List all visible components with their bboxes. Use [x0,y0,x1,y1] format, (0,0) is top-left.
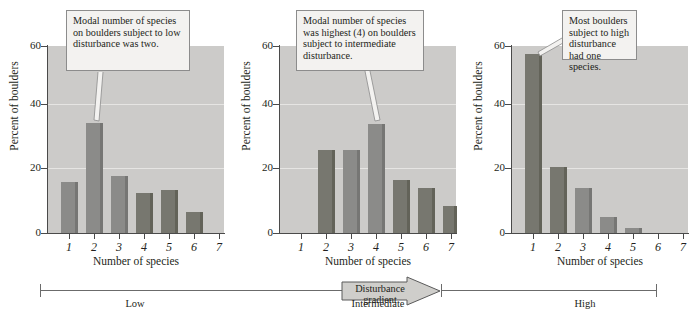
x-tick-6-high [658,233,659,239]
bar-high-2 [550,167,567,233]
x-tick-2-high [558,233,559,239]
y-label-0-intermediate: 0 [249,227,273,238]
y-label-20-high: 20 [481,162,505,173]
y-label-20-intermediate: 20 [249,162,273,173]
disturbance-gradient-strip: Disturbance gradient Low Intermediate Hi… [0,268,697,321]
x-axis-title-intermediate: Number of species [280,255,456,267]
x-axis-low [47,233,225,234]
y-tick-20-high [505,168,511,169]
x-label-2-intermediate: 2 [316,241,336,254]
bar-low-4 [136,193,153,233]
gradient-line-right [441,290,657,291]
x-tick-4-intermediate [376,233,377,239]
x-label-3-intermediate: 3 [341,241,361,254]
callout-low: Modal number of species on boulders subj… [66,10,190,71]
chart-panel-intermediate: 60 40 20 0 1 2 3 4 5 6 7 Number of speci… [232,0,464,268]
y-tick-20-intermediate [273,168,279,169]
gradient-label-intermediate: Intermediate [318,298,438,310]
bar-low-6 [186,212,203,233]
callout-intermediate: Modal number of species was highest (4) … [296,10,424,71]
y-tick-0-low [41,233,47,234]
y-axis-title-intermediate: Percent of boulders [240,46,252,166]
bar-intermediate-6 [418,188,435,233]
bar-low-3 [111,176,128,233]
x-label-6-intermediate: 6 [416,241,436,254]
x-tick-7-low [219,233,220,239]
x-label-5-high: 5 [623,241,643,254]
gradient-line-left [40,290,343,291]
y-tick-60-intermediate [273,46,279,47]
bar-intermediate-3 [343,150,360,233]
gridline-40-low [48,104,224,105]
bar-high-3 [575,188,592,233]
x-tick-7-high [683,233,684,239]
x-tick-3-high [583,233,584,239]
y-label-60-intermediate: 60 [249,40,273,51]
y-tick-40-low [41,104,47,105]
y-label-20-low: 20 [17,162,41,173]
gradient-label-low: Low [75,298,195,310]
x-tick-6-low [194,233,195,239]
y-tick-60-low [41,46,47,47]
x-tick-2-low [94,233,95,239]
bar-intermediate-7 [443,206,457,233]
bar-low-2 [86,123,103,233]
x-tick-3-low [119,233,120,239]
x-label-2-high: 2 [548,241,568,254]
x-tick-5-low [169,233,170,239]
x-label-4-low: 4 [134,241,154,254]
x-label-5-intermediate: 5 [391,241,411,254]
y-label-0-high: 0 [481,227,505,238]
x-tick-2-intermediate [326,233,327,239]
chart-panel-low: 60 40 20 0 1 2 3 4 5 6 7 Number of speci… [0,0,232,268]
x-tick-4-high [608,233,609,239]
x-tick-5-high [633,233,634,239]
x-label-7-low: 7 [209,241,229,254]
x-tick-3-intermediate [351,233,352,239]
x-label-1-intermediate: 1 [291,241,311,254]
y-label-40-intermediate: 40 [249,98,273,109]
y-axis-intermediate [279,45,280,234]
x-label-4-high: 4 [598,241,618,254]
y-label-40-low: 40 [17,98,41,109]
x-label-3-high: 3 [573,241,593,254]
y-axis-title-high: Percent of boulders [472,46,484,166]
gradient-cap-right [656,284,657,297]
callout-high: Most boulders subject to high disturbanc… [562,10,637,60]
bar-high-4 [600,217,617,233]
x-label-7-intermediate: 7 [441,241,461,254]
gradient-label-high: High [525,298,645,310]
x-axis-intermediate [279,233,457,234]
y-tick-0-high [505,233,511,234]
gradient-cap-mid-right [441,284,442,297]
x-label-4-intermediate: 4 [366,241,386,254]
y-tick-60-high [505,46,511,47]
x-label-7-high: 7 [673,241,693,254]
x-tick-4-low [144,233,145,239]
y-tick-40-intermediate [273,104,279,105]
bar-intermediate-5 [393,180,410,233]
y-label-0-low: 0 [17,227,41,238]
gridline-40-intermediate [280,104,456,105]
x-label-6-high: 6 [648,241,668,254]
x-tick-1-low [69,233,70,239]
x-axis-high [511,233,689,234]
y-axis-low [47,45,48,234]
x-tick-1-intermediate [301,233,302,239]
x-axis-title-low: Number of species [48,255,224,267]
x-label-3-low: 3 [109,241,129,254]
gradient-cap-left [40,284,41,297]
bar-intermediate-4 [368,124,385,233]
y-label-40-high: 40 [481,98,505,109]
y-axis-high [511,45,512,234]
bar-high-1 [525,54,542,233]
x-tick-1-high [533,233,534,239]
bar-low-1 [61,182,78,233]
chart-panel-high: 60 40 20 0 1 2 3 4 5 6 7 Number of speci… [464,0,696,268]
x-axis-title-high: Number of species [512,255,688,267]
y-tick-0-intermediate [273,233,279,234]
x-label-5-low: 5 [159,241,179,254]
figure-disturbance-gradient: 60 40 20 0 1 2 3 4 5 6 7 Number of speci… [0,0,697,321]
y-tick-40-high [505,104,511,105]
gridline-20-low [48,168,224,169]
